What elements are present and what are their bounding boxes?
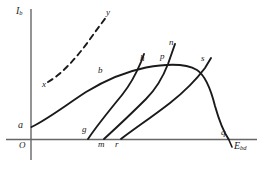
diagram-svg bbox=[0, 0, 264, 178]
label-y: y bbox=[106, 8, 110, 17]
label-s: s bbox=[201, 54, 205, 63]
label-r: r bbox=[115, 140, 119, 149]
label-x: x bbox=[42, 80, 46, 89]
label-p: p bbox=[160, 52, 165, 61]
label-h: h bbox=[140, 54, 145, 63]
origin-label: O bbox=[19, 141, 26, 150]
label-n: n bbox=[169, 38, 174, 47]
x-axis-label: Ebd bbox=[234, 141, 247, 152]
figure-canvas: Ib Ebd O a b g h m n p q r s x y bbox=[0, 0, 264, 178]
y-axis-label: Ib bbox=[16, 6, 23, 17]
label-a: a bbox=[18, 120, 23, 130]
label-g: g bbox=[82, 125, 87, 134]
label-b: b bbox=[98, 66, 103, 75]
branch-curve-g-h bbox=[88, 54, 144, 139]
label-m: m bbox=[98, 140, 105, 149]
label-q: q bbox=[221, 128, 226, 137]
